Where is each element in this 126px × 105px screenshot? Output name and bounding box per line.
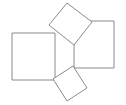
net-diagram-svg bbox=[0, 0, 126, 105]
face-left-square bbox=[12, 33, 55, 80]
geometric-net-figure bbox=[0, 0, 126, 105]
face-bottom-tilted-square bbox=[53, 66, 87, 101]
